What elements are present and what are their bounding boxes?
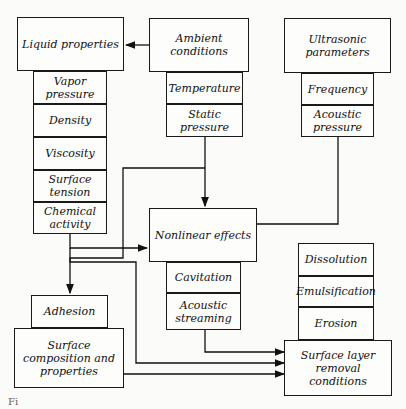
surface-layer-removal-label: Surface layer removal conditions [285,349,391,388]
chemical-activity-label: Chemical activity [34,205,106,231]
nonlinear-effects-box: Nonlinear effects [149,208,257,262]
nonlinear-effects-label: Nonlinear effects [155,229,251,242]
emulsification-label: Emulsification [296,285,376,298]
ambient-conditions-label: Ambient conditions [150,32,248,58]
surface-tension-box: Surface tension [33,170,107,202]
liquid-properties-label: Liquid properties [22,38,119,51]
surface-tension-label: Surface tension [34,173,106,199]
ultrasonic-parameters-label: Ultrasonic parameters [285,33,390,59]
ultrasonic-parameters-box: Ultrasonic parameters [284,18,391,73]
vapor-pressure-label: Vapor pressure [34,75,106,101]
surface-composition-label: Surface composition and properties [15,339,123,378]
density-label: Density [49,114,91,127]
emulsification-box: Emulsification [298,276,374,307]
adhesion-box: Adhesion [31,295,108,328]
chemical-activity-box: Chemical activity [33,202,107,234]
static-pressure-box: Static pressure [166,104,243,137]
frequency-label: Frequency [308,83,368,96]
adhesion-label: Adhesion [44,305,95,318]
erosion-box: Erosion [298,307,374,340]
vapor-pressure-box: Vapor pressure [33,71,107,104]
viscosity-box: Viscosity [33,137,107,170]
static-pressure-label: Static pressure [167,108,242,134]
acoustic-pressure-label: Acoustic pressure [302,108,373,134]
liquid-properties-box: Liquid properties [17,17,124,71]
figure-caption: Fi [8,396,18,407]
erosion-label: Erosion [315,317,358,330]
temperature-label: Temperature [168,82,240,95]
temperature-box: Temperature [166,72,243,104]
acoustic-streaming-label: Acoustic streaming [167,299,240,325]
acoustic-streaming-box: Acoustic streaming [166,293,241,330]
cavitation-label: Cavitation [175,271,232,284]
viscosity-label: Viscosity [45,147,95,160]
frequency-box: Frequency [301,73,374,105]
surface-composition-box: Surface composition and properties [14,328,124,388]
dissolution-label: Dissolution [305,253,368,266]
density-box: Density [33,104,107,137]
acoustic-pressure-box: Acoustic pressure [301,105,374,137]
surface-layer-removal-box: Surface layer removal conditions [284,340,392,396]
dissolution-box: Dissolution [298,243,374,276]
ambient-conditions-box: Ambient conditions [149,18,249,72]
cavitation-box: Cavitation [166,262,241,293]
